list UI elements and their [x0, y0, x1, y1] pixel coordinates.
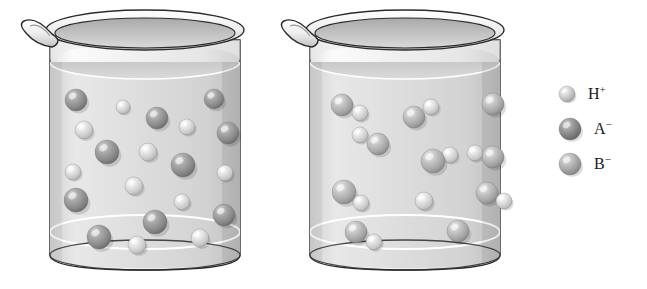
left-beaker-glass — [21, 10, 244, 272]
left-beaker — [0, 0, 260, 289]
legend-label: H+ — [588, 84, 606, 102]
left-beaker-svg — [0, 0, 260, 289]
legend-item-Bminus: B− — [556, 146, 646, 181]
legend-item-Aminus: A− — [556, 111, 646, 146]
legend-label: A− — [594, 119, 612, 137]
legend-sphere-icon — [556, 115, 584, 143]
figure-canvas: H+A−B− — [0, 0, 647, 289]
right-beaker-svg — [260, 0, 520, 289]
right-beaker — [260, 0, 520, 289]
legend-item-Hplus: H+ — [556, 76, 646, 111]
legend-sphere-icon — [556, 150, 584, 178]
legend-label: B− — [594, 154, 611, 172]
legend-sphere-icon — [556, 83, 578, 105]
particle-legend: H+A−B− — [556, 76, 646, 181]
